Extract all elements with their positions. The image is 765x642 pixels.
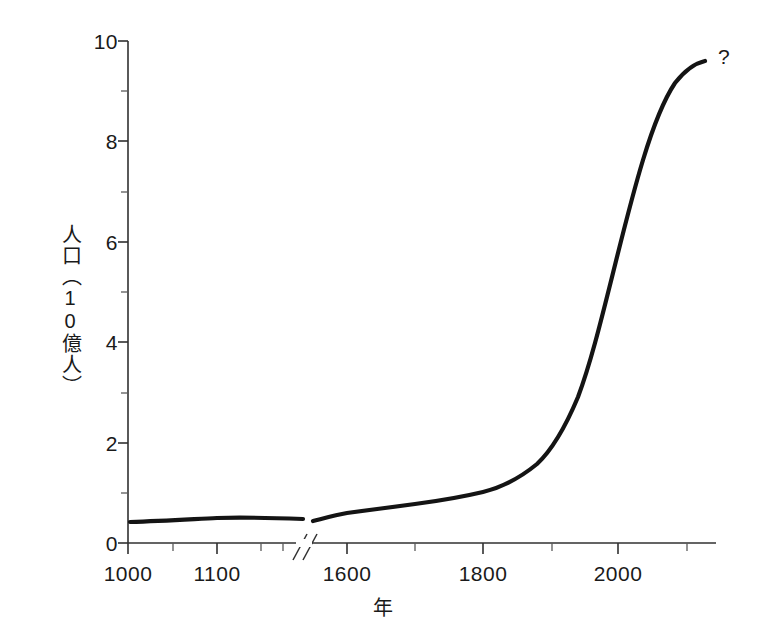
x-axis-title: 年 <box>0 592 765 621</box>
axis-break-gap <box>296 539 312 547</box>
y-tick-label-0: 0 <box>88 533 118 554</box>
x-tick-label-1100: 1100 <box>193 563 240 584</box>
x-axis-major-ticks <box>128 543 618 554</box>
x-tick-label-1800: 1800 <box>459 563 508 584</box>
population-growth-chart: 10 8 6 4 2 0 1000 1100 1600 1800 2000 人口… <box>0 0 765 642</box>
y-axis-minor-ticks <box>121 91 128 493</box>
y-tick-label-6: 6 <box>88 232 118 253</box>
y-tick-label-10: 10 <box>88 31 118 52</box>
x-tick-label-1600: 1600 <box>323 563 372 584</box>
x-tick-label-1000: 1000 <box>104 563 153 584</box>
x-tick-label-2000: 2000 <box>594 563 643 584</box>
population-curve-segment-modern <box>313 61 705 521</box>
population-curve-segment-early <box>130 518 303 522</box>
y-tick-label-8: 8 <box>88 131 118 152</box>
x-axis-minor-ticks <box>173 543 687 551</box>
y-tick-label-2: 2 <box>88 433 118 454</box>
y-tick-label-4: 4 <box>88 332 118 353</box>
future-uncertainty-annotation: ? <box>718 45 730 69</box>
y-axis-title: 人口（10億人） <box>46 224 80 396</box>
